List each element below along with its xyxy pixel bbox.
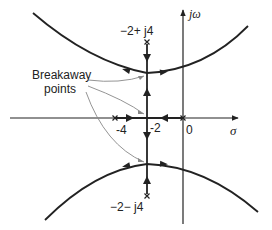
upper-locus-branch: [33, 13, 248, 75]
pole-upper-label: −2+ j4: [120, 25, 153, 37]
pole-lower-marker: [145, 194, 150, 199]
pole-lower-label: −2− j4: [110, 201, 143, 213]
breakaway-pointers: [86, 76, 144, 162]
breakaway-label-line2: points: [44, 83, 76, 95]
imag-axis-label: jω: [189, 8, 201, 20]
vertical-locus-segment: [143, 44, 151, 194]
pole-upper-marker: [145, 40, 150, 45]
tick-label-minus4: -4: [116, 124, 127, 136]
tick-label-zero: 0: [186, 124, 193, 136]
lower-locus-branch: [45, 161, 258, 220]
real-axis-locus: [115, 114, 183, 122]
tick-label-minus2: -2: [150, 122, 161, 134]
real-axis-label: σ: [230, 124, 236, 137]
pole-markers: [113, 40, 186, 199]
breakaway-label-line1: Breakaway: [32, 69, 91, 81]
